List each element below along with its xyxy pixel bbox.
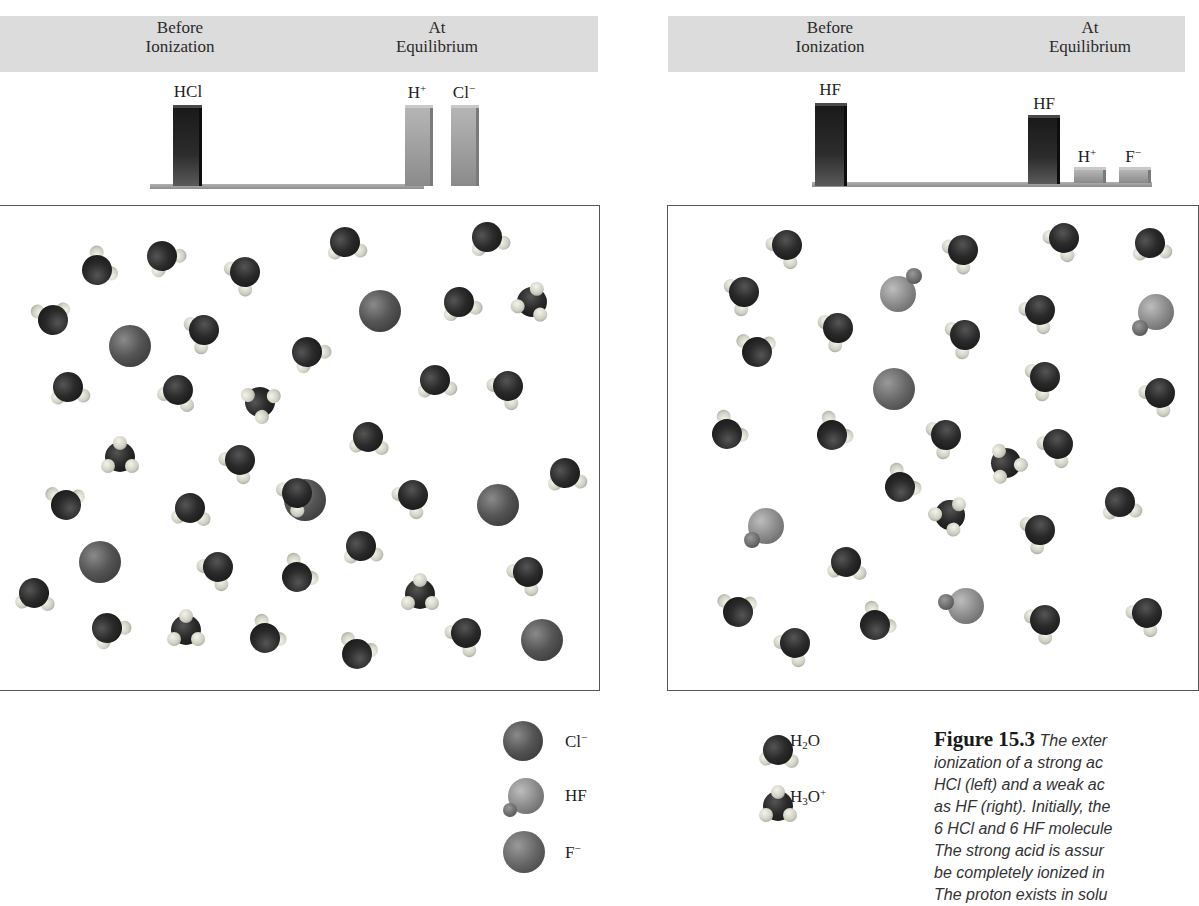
figure-number: Figure 15.3 [934, 728, 1035, 751]
legend-label-hf: HF [565, 786, 587, 806]
ionization-text: Ionization [130, 37, 230, 56]
figure-caption: Figure 15.3 The exter ionization of a st… [934, 728, 1194, 906]
caption-line: The strong acid is assur [934, 840, 1194, 862]
bar-label-h-plus: H+ [1072, 146, 1102, 167]
bar-h-plus-equilibrium [1074, 170, 1106, 183]
legend-chloride-ion-icon [503, 721, 543, 761]
caption-line: The proton exists in solu [934, 884, 1194, 906]
caption-line: as HF (right). Initially, the [934, 796, 1194, 818]
legend-fluoride-ion-icon [503, 831, 545, 873]
caption-line: HCl (left) and a weak ac [934, 774, 1194, 796]
hf-hydrogen-atom [1132, 320, 1148, 336]
bar-label-hf-equilibrium: HF [1026, 94, 1062, 114]
legend-hf-hydrogen-atom [503, 803, 517, 817]
hf-molecule-icon [948, 588, 984, 624]
bar-f-minus-equilibrium [1119, 170, 1151, 183]
chloride-ion-icon [477, 484, 519, 526]
bar-hf-equilibrium [1028, 118, 1060, 184]
chloride-ion-icon [109, 325, 151, 367]
ionization-text: Ionization [780, 37, 880, 56]
left-at-equilibrium-label: At Equilibrium [382, 18, 492, 56]
bar-label-f-minus: F− [1118, 146, 1148, 167]
right-at-equilibrium-label: At Equilibrium [1035, 18, 1145, 56]
bar-cl-minus-equilibrium [451, 108, 479, 186]
caption-line: be completely ionized in [934, 862, 1194, 884]
chloride-ion-icon [521, 619, 563, 661]
bar-label-hf-before: HF [812, 80, 848, 100]
equilibrium-text: Equilibrium [1035, 37, 1145, 56]
bar-hf-before [815, 106, 847, 186]
fluoride-ion-icon [873, 368, 915, 410]
left-before-ionization-label: Before Ionization [130, 18, 230, 56]
bar-h-plus-equilibrium [405, 108, 433, 186]
bar-label-hcl: HCl [168, 82, 208, 102]
left-header-band [0, 16, 598, 72]
chloride-ion-icon [359, 290, 401, 332]
at-text: At [1035, 18, 1145, 37]
legend-label-water: H2O [790, 731, 820, 751]
before-text: Before [780, 18, 880, 37]
legend-label-hydronium: H3O+ [790, 786, 826, 807]
right-before-ionization-label: Before Ionization [780, 18, 880, 56]
caption-line: ionization of a strong ac [934, 752, 1194, 774]
bar-hcl-before [173, 108, 202, 186]
bar-label-cl-minus: Cl− [444, 82, 484, 103]
hf-hydrogen-atom [938, 594, 954, 610]
bar-label-h-plus: H+ [400, 82, 434, 103]
before-text: Before [130, 18, 230, 37]
hf-hydrogen-atom [744, 532, 760, 548]
caption-line: The exter [1040, 732, 1108, 749]
chloride-ion-icon [79, 541, 121, 583]
equilibrium-text: Equilibrium [382, 37, 492, 56]
caption-line: 6 HCl and 6 HF molecule [934, 818, 1194, 840]
legend-label-chloride: Cl− [565, 731, 587, 752]
hf-hydrogen-atom [906, 268, 922, 284]
at-text: At [382, 18, 492, 37]
legend-label-fluoride: F− [565, 842, 581, 863]
